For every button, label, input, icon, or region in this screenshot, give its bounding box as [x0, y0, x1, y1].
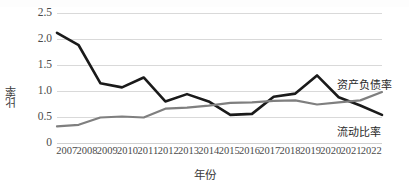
series-lines: [57, 13, 382, 143]
x-axis-tick-label: 2011: [137, 146, 158, 162]
x-axis-tick-label: 2020: [320, 146, 341, 162]
x-axis-tick-label: 2008: [76, 146, 97, 162]
x-axis-tick-label: 2019: [300, 146, 321, 162]
plot-area: [57, 13, 382, 143]
series-label-current-ratio: 流动比率: [337, 127, 381, 138]
x-axis-tick-label: 2014: [198, 146, 219, 162]
x-axis-tick-label: 2015: [219, 146, 240, 162]
x-axis-tick-label: 2021: [340, 146, 361, 162]
line-chart: 比率 00.51.01.52.02.5 20072008200920102011…: [0, 0, 409, 194]
x-axis-tick-label: 2018: [279, 146, 300, 162]
x-axis-tick-label: 2009: [97, 146, 118, 162]
series-label-asset-liability: 资产负债率: [337, 80, 392, 91]
x-axis-tick-label: 2013: [178, 146, 199, 162]
y-axis-tick-label: 2.0: [38, 33, 52, 45]
x-axis-tick-label: 2010: [117, 146, 138, 162]
y-axis-tick-label: 2.5: [38, 7, 52, 19]
top-margin-strip: [0, 0, 409, 7]
y-axis-title: 比率: [3, 86, 19, 108]
y-axis-title-text: 比率: [3, 86, 19, 108]
gridline: [57, 143, 382, 144]
x-axis-tick-label: 2012: [158, 146, 179, 162]
y-axis-tick-label: 1.5: [38, 59, 52, 71]
y-axis-tick-label: 0.5: [38, 111, 52, 123]
x-axis-tick-label: 2017: [259, 146, 280, 162]
x-axis-tick-labels: 2007200820092010201120122013201420152016…: [57, 146, 382, 162]
y-axis-tick-label: 0: [46, 137, 52, 149]
y-axis-tick-label: 1.0: [38, 85, 52, 97]
x-axis-tick-label: 2007: [56, 146, 77, 162]
x-axis-title: 年份: [0, 166, 409, 182]
x-axis-tick-label: 2022: [361, 146, 382, 162]
x-axis-tick-label: 2016: [239, 146, 260, 162]
